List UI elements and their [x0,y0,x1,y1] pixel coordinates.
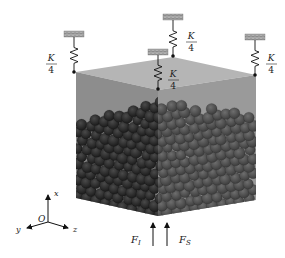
spring-coil-icon [169,20,177,56]
z-axis-label: z [72,225,78,234]
y-axis-label: y [15,225,21,234]
coordinate-axes: x y z O [15,189,78,234]
origin-label: O [38,214,46,224]
spring-label-num: K [47,53,56,63]
particle [229,108,240,119]
spring-label-den: 4 [268,65,274,75]
particle [104,110,115,121]
attachment-point [171,54,175,58]
z-axis-arrow [48,222,68,228]
spring-label-left: K 4 [46,53,57,75]
diagram-canvas: K 4 K 4 K 4 K 4 x y z O FI FS [0,0,285,258]
force-F-I: FI [130,223,153,247]
attachment-point [156,87,160,91]
particle [76,119,87,130]
force-label-F-I: FI [130,234,141,247]
spring-label-num: K [187,31,196,41]
spring-left [64,31,84,74]
spring-label-den: 4 [188,43,194,53]
particle [206,103,217,114]
spring-label-num: K [267,53,276,63]
force-label-F-S: FS [178,234,191,247]
particles-right [152,100,260,218]
spring-label-den: 4 [48,65,54,75]
spring-right [245,34,265,77]
wall-anchor-icon [64,31,84,37]
spring-coil-icon [70,37,78,72]
spring-label-num: K [169,69,178,79]
attachment-point [72,70,76,74]
wall-anchor-icon [163,14,183,20]
wall-anchor-icon [245,34,265,40]
spring-label-right: K 4 [266,53,277,75]
particle [244,112,255,123]
spring-label-den: 4 [170,81,176,91]
spring-coil-icon [251,40,259,75]
force-F-S: FS [167,223,191,247]
particle [190,105,201,116]
particle [176,100,187,111]
spring-label-back: K 4 [186,31,197,53]
attachment-point [253,73,257,77]
wall-anchor-icon [148,49,168,55]
x-axis-label: x [54,189,59,198]
